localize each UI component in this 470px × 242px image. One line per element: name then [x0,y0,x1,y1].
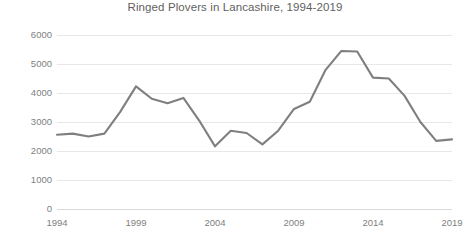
x-axis-tick-label: 1999 [111,217,161,228]
x-axis-tick-label: 2019 [427,217,470,228]
series-line-ringed-plovers [57,51,452,146]
x-axis-tick-label: 2009 [269,217,319,228]
x-axis-tick-label: 2004 [190,217,240,228]
series-layer [0,0,470,242]
x-axis-tick-label: 1994 [32,217,82,228]
x-axis-tick-label: 2014 [348,217,398,228]
plot-area: 0100020003000400050006000 19941999200420… [0,0,470,242]
line-chart: Ringed Plovers in Lancashire, 1994-2019 … [0,0,470,242]
